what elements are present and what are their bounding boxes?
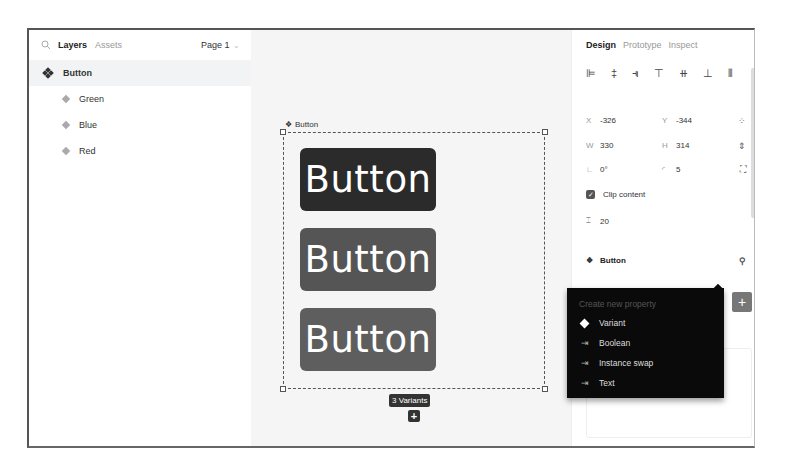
align-bottom-icon[interactable]: ⊥ [703, 67, 713, 80]
resize-handle-bl[interactable] [280, 386, 286, 392]
constraints-icon[interactable]: ⁘ [738, 116, 746, 126]
rotation-radius-row: ∟ 0° ◜ 5 ⛶ [586, 165, 746, 174]
page-selector[interactable]: Page 1⌄ [201, 40, 240, 50]
layer-label: Red [79, 146, 96, 156]
menu-item-boolean[interactable]: ⇥ Boolean [579, 338, 630, 348]
alignment-toolbar: ⊫ ‡ ⫣ ⊤ ⧺ ⊥ ⫴ [572, 60, 755, 86]
component-set-icon: ❖ [586, 256, 600, 265]
resize-handle-tl[interactable] [280, 129, 286, 135]
menu-item-label: Boolean [599, 338, 630, 348]
resize-handle-br[interactable] [542, 386, 548, 392]
x-label: X [586, 116, 600, 125]
layer-row-button[interactable]: Button [29, 60, 251, 86]
layer-row-blue[interactable]: Blue [29, 112, 251, 138]
menu-item-label: Text [599, 378, 615, 388]
w-label: W [586, 141, 600, 150]
layers-panel: Layers Assets Page 1⌄ Button Green Blue … [29, 30, 251, 446]
align-top-icon[interactable]: ⊤ [654, 67, 664, 80]
spacing-row: ⌶ 20 [586, 216, 746, 226]
variant-blue[interactable]: Button [300, 228, 436, 291]
property-icon: ⇥ [579, 358, 591, 368]
clip-content-row[interactable]: ✓ Clip content [586, 190, 746, 199]
align-h-center-icon[interactable]: ‡ [611, 67, 617, 79]
tab-inspect[interactable]: Inspect [669, 40, 698, 50]
variants-badge: 3 Variants [389, 394, 430, 407]
align-left-icon[interactable]: ⊫ [586, 67, 596, 80]
spacing-icon: ⌶ [586, 216, 600, 226]
size-row: W 330 H 314 ⇕ [586, 141, 746, 150]
add-property-button[interactable]: + [732, 292, 752, 312]
distribute-icon[interactable]: ⫴ [728, 67, 733, 80]
variant-icon [62, 121, 70, 129]
component-set-icon: ❖ [285, 120, 292, 129]
layer-row-green[interactable]: Green [29, 86, 251, 112]
tab-design[interactable]: Design [586, 40, 616, 50]
clip-content-checkbox[interactable]: ✓ [586, 190, 595, 199]
component-settings-icon[interactable]: ⚲ [739, 256, 746, 266]
independent-corners-icon[interactable]: ⛶ [740, 164, 746, 175]
x-input[interactable]: -326 [600, 116, 662, 125]
tab-layers[interactable]: Layers [58, 40, 87, 50]
component-set-icon [43, 68, 53, 78]
align-right-icon[interactable]: ⫣ [632, 67, 639, 80]
y-label: Y [662, 116, 676, 125]
menu-item-label: Variant [599, 318, 625, 328]
rotation-input[interactable]: 0° [600, 165, 662, 174]
layer-label: Green [79, 94, 104, 104]
resize-handle-tr[interactable] [542, 129, 548, 135]
variant-red[interactable]: Button [300, 308, 436, 371]
component-row: ❖ Button ⚲ [586, 256, 746, 265]
canvas[interactable]: ❖ Button Button Button Button 3 Variants… [251, 30, 571, 446]
search-icon[interactable] [41, 40, 51, 50]
clip-content-label: Clip content [603, 190, 645, 199]
diamond-icon [580, 318, 590, 328]
component-set-frame[interactable]: Button Button Button [283, 132, 545, 389]
layers-header: Layers Assets Page 1⌄ [29, 30, 251, 60]
page-label: Page 1 [201, 40, 230, 50]
align-v-center-icon[interactable]: ⧺ [679, 67, 688, 80]
position-row: X -326 Y -344 ⁘ [586, 116, 746, 125]
h-input[interactable]: 314 [676, 141, 738, 150]
menu-title: Create new property [579, 299, 656, 309]
menu-item-text[interactable]: ⇥ Text [579, 378, 615, 388]
scrollbar[interactable] [751, 68, 755, 218]
radius-input[interactable]: 5 [676, 165, 738, 174]
property-icon: ⇥ [579, 338, 591, 348]
w-input[interactable]: 330 [600, 141, 662, 150]
layer-label: Button [63, 68, 92, 78]
constrain-proportions-icon[interactable]: ⇕ [738, 141, 746, 151]
menu-item-variant[interactable]: Variant [579, 318, 625, 328]
frame-label-text: Button [295, 120, 318, 129]
create-property-menu: Create new property Variant ⇥ Boolean ⇥ … [567, 288, 724, 398]
design-tabs: Design Prototype Inspect [572, 30, 755, 60]
variant-green[interactable]: Button [300, 148, 436, 211]
component-name: Button [600, 256, 626, 265]
layer-label: Blue [79, 120, 97, 130]
chevron-down-icon: ⌄ [233, 41, 240, 50]
tab-prototype[interactable]: Prototype [623, 40, 662, 50]
rotation-icon: ∟ [586, 165, 600, 174]
frame-label[interactable]: ❖ Button [285, 120, 318, 129]
h-label: H [662, 141, 676, 150]
variant-icon [62, 147, 70, 155]
corner-radius-icon: ◜ [662, 165, 676, 174]
spacing-input[interactable]: 20 [600, 217, 662, 226]
menu-item-label: Instance swap [599, 358, 653, 368]
tab-assets[interactable]: Assets [95, 40, 122, 50]
menu-item-instance-swap[interactable]: ⇥ Instance swap [579, 358, 653, 368]
add-variant-button[interactable]: + [408, 410, 420, 422]
property-icon: ⇥ [579, 378, 591, 388]
y-input[interactable]: -344 [676, 116, 738, 125]
variant-icon [62, 95, 70, 103]
layer-row-red[interactable]: Red [29, 138, 251, 164]
